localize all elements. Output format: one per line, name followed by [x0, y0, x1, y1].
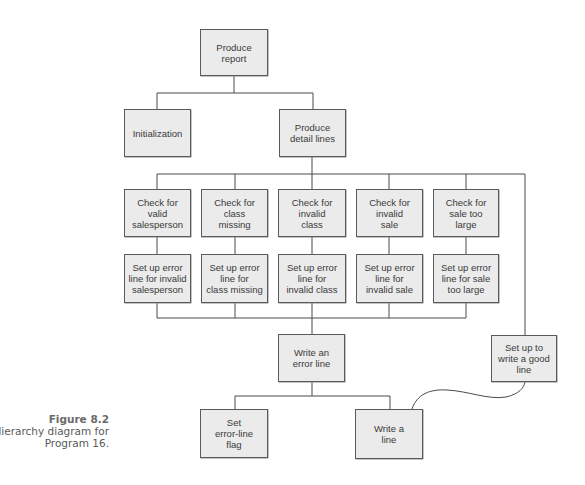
node-error-class-missing: Set up error line for class missing: [201, 254, 268, 303]
node-check-invalid-sale: Check for invalid sale: [356, 189, 423, 237]
figure-caption: Figure 8.2 Hierarchy diagram for Program…: [0, 413, 109, 449]
hierarchy-diagram: Produce report Initialization Produce de…: [0, 0, 585, 485]
node-produce-report: Produce report: [200, 29, 268, 76]
node-initialization: Initialization: [124, 109, 191, 157]
node-set-error-line-flag: Set error-line flag: [200, 409, 268, 458]
node-check-class-missing: Check for class missing: [201, 189, 268, 237]
node-error-invalid-salesperson: Set up error line for invalid salesperso…: [124, 254, 191, 303]
node-error-invalid-class: Set up error line for invalid class: [278, 254, 346, 303]
figure-label: Figure 8.2: [0, 413, 109, 425]
node-set-up-good-line: Set up to write a good line: [491, 335, 557, 382]
node-error-sale-too-large: Set up error line for sale too large: [433, 254, 499, 303]
caption-line-1: Hierarchy diagram for: [0, 425, 109, 437]
node-write-error-line: Write an error line: [278, 334, 345, 382]
caption-line-2: Program 16.: [0, 437, 109, 449]
node-write-a-line: Write a line: [355, 409, 423, 459]
node-check-invalid-class: Check for invalid class: [278, 189, 346, 237]
node-check-valid-salesperson: Check for valid salesperson: [124, 189, 191, 237]
node-produce-detail-lines: Produce detail lines: [279, 109, 346, 157]
node-error-invalid-sale: Set up error line for invalid sale: [356, 254, 423, 303]
node-check-sale-too-large: Check for sale too large: [433, 189, 499, 237]
